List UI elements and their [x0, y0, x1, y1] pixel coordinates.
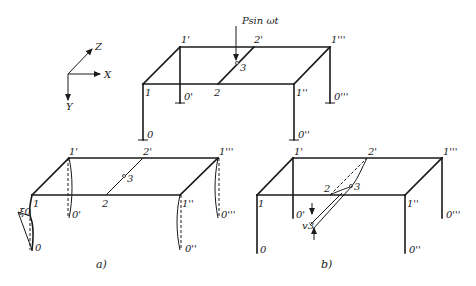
node-label-2: 2	[213, 87, 220, 98]
node-label-0p: 0'	[296, 209, 305, 220]
node-label-0: 0	[260, 244, 267, 255]
node-label-0p: 0'	[72, 209, 81, 220]
node-label-0: 0	[35, 242, 42, 253]
right-side-beam	[294, 47, 330, 84]
coordinate-axes: Z X Y	[66, 41, 112, 112]
caption-a: a)	[96, 258, 107, 271]
left-side-beam	[257, 158, 293, 195]
left-side-beam	[143, 47, 180, 84]
node-label-1p: 1'	[69, 146, 78, 157]
load-label: Psin ωt	[241, 15, 280, 26]
displacement-label: v3	[302, 220, 314, 231]
node-label-2: 2	[101, 198, 108, 209]
node-label-1p: 1'	[181, 34, 190, 45]
node-label-0: 0	[147, 129, 154, 140]
node-label-2p: 2'	[253, 34, 263, 45]
node-label-3: 3	[240, 62, 246, 73]
caption-b: b)	[321, 258, 332, 271]
projection-line-1	[310, 193, 342, 225]
left-side-beam	[32, 158, 69, 195]
node-label-1pp: 1''	[407, 198, 419, 209]
node-label-1ppp: 1'''	[331, 34, 346, 45]
node-label-2p: 2'	[142, 146, 152, 157]
projection-line-2	[313, 186, 352, 229]
node-label-0pp: 0''	[185, 243, 197, 254]
node-label-0pp: 0''	[298, 129, 310, 140]
node-label-0ppp: 0'''	[446, 209, 461, 220]
node-label-1: 1	[258, 198, 264, 209]
node-label-3: 3	[354, 181, 360, 192]
frame-b: v3 1' 2' 1''' 2 3 1 1'' 0' 0''' 0 0'' b)	[257, 146, 461, 271]
node-label-0ppp: 0'''	[334, 91, 349, 102]
node-label-1pp: 1''	[182, 198, 194, 209]
node-label-1: 1	[33, 198, 39, 209]
node-label-1: 1	[145, 87, 151, 98]
node-label-2p: 2'	[367, 146, 377, 157]
frame-a: ξ0 1' 2' 1''' 3 1 2 1'' 0' 0''' 0 0'' a)	[18, 146, 236, 271]
node-label-2: 2	[323, 183, 330, 194]
node-label-0pp: 0''	[409, 244, 421, 255]
column-1ppp-0ppp-deformed	[215, 158, 218, 218]
node-label-0p: 0'	[184, 91, 193, 102]
z-axis-arrow	[68, 49, 92, 74]
node-label-1p: 1'	[294, 146, 303, 157]
y-axis-label: Y	[66, 101, 74, 112]
node-label-1pp: 1''	[296, 87, 308, 98]
right-side-beam	[180, 158, 218, 195]
displacement-label: ξ0	[19, 206, 32, 217]
x-axis-label: X	[103, 69, 112, 80]
top-frame: Psin ωt 1' 2' 1''' 3 1 0' 2 1'' 0''' 0 0…	[138, 15, 349, 140]
column-1pp-0pp-deformed	[177, 195, 180, 250]
frame-diagram: Z X Y Psin ωt 1' 2' 1''' 3 1 0' 2 1'' 0'…	[0, 0, 476, 286]
node-label-0ppp: 0'''	[221, 209, 236, 220]
node-label-1ppp: 1'''	[443, 146, 458, 157]
right-side-beam	[405, 158, 442, 195]
node-label-3: 3	[127, 173, 133, 184]
node-label-1ppp: 1'''	[219, 146, 234, 157]
z-axis-label: Z	[94, 41, 103, 52]
point-3-marker	[236, 62, 239, 65]
point-3-marker	[123, 175, 126, 178]
